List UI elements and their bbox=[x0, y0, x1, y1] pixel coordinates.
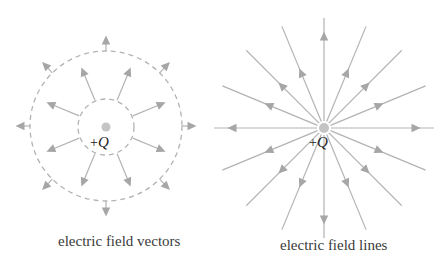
arrow-head-icon bbox=[102, 208, 110, 217]
diagram-canvas bbox=[0, 0, 444, 270]
charge-symbol: Q bbox=[98, 134, 109, 150]
arrow-head-icon bbox=[156, 98, 168, 109]
charge-sign: + bbox=[309, 135, 317, 150]
arrow-head-icon bbox=[188, 122, 197, 130]
arrow-head-icon bbox=[263, 145, 275, 156]
arrow-head-icon bbox=[123, 66, 134, 78]
field-vector bbox=[117, 72, 129, 101]
arrow-head-icon bbox=[45, 98, 57, 109]
arrow-head-icon bbox=[228, 124, 237, 132]
field-vector bbox=[51, 138, 80, 150]
arrow-head-icon bbox=[374, 99, 386, 110]
electric-field-vectors-diagram bbox=[16, 36, 197, 217]
arrow-head-icon bbox=[374, 145, 386, 156]
arrow-head-icon bbox=[320, 32, 328, 41]
caption-field-lines: electric field lines bbox=[280, 237, 387, 254]
arrow-head-icon bbox=[123, 177, 134, 189]
field-vector bbox=[117, 154, 129, 183]
charge-symbol: Q bbox=[317, 134, 328, 150]
arrow-head-icon bbox=[320, 216, 328, 225]
arrow-head-icon bbox=[102, 36, 110, 45]
arrow-head-icon bbox=[341, 178, 352, 190]
charge-sign: + bbox=[90, 135, 98, 150]
charge-label-right: +Q bbox=[309, 134, 328, 151]
arrow-head-icon bbox=[45, 144, 57, 155]
field-vector bbox=[83, 72, 95, 101]
charge-label-left: +Q bbox=[90, 134, 109, 151]
arrow-head-icon bbox=[156, 144, 168, 155]
arrow-head-icon bbox=[341, 67, 352, 79]
field-vector bbox=[83, 154, 95, 183]
arrow-head-icon bbox=[263, 99, 275, 110]
caption-field-vectors: electric field vectors bbox=[58, 233, 180, 250]
arrow-head-icon bbox=[16, 122, 25, 130]
positive-charge-dot bbox=[319, 123, 329, 133]
arrow-head-icon bbox=[412, 124, 421, 132]
arrow-head-icon bbox=[77, 177, 88, 189]
arrow-head-icon bbox=[295, 178, 306, 190]
field-vector bbox=[133, 138, 162, 150]
electric-field-lines-diagram bbox=[214, 18, 434, 238]
arrow-head-icon bbox=[295, 67, 306, 79]
positive-charge-dot bbox=[102, 123, 111, 132]
arrow-head-icon bbox=[77, 66, 88, 78]
field-vector bbox=[133, 104, 162, 116]
field-vector bbox=[51, 104, 80, 116]
